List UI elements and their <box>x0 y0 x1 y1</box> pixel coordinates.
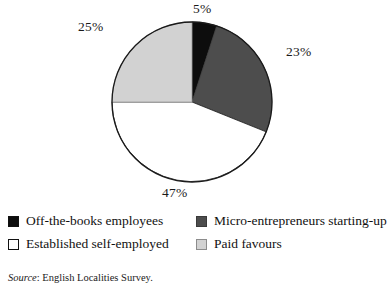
legend-label-established-self-employed: Established self-employed <box>26 237 169 251</box>
legend-row: Off-the-books employees Micro-entreprene… <box>8 214 391 237</box>
pie-label-5-percent: 5% <box>193 1 211 17</box>
legend-item-off-the-books-employees: Off-the-books employees <box>8 214 196 228</box>
legend-label-off-the-books-employees: Off-the-books employees <box>26 214 163 228</box>
pie-label-23-percent: 23% <box>286 44 311 60</box>
pie-label-47-percent: 47% <box>162 185 187 201</box>
chart-legend: Off-the-books employees Micro-entreprene… <box>8 214 391 260</box>
pie-chart-plot-area: 5% 23% 47% 25% <box>0 0 391 205</box>
legend-swatch-dark-gray-icon <box>196 216 207 227</box>
legend-item-micro-entrepreneurs-starting-up: Micro-entrepreneurs starting-up <box>196 214 391 228</box>
source-text: English Localities Survey. <box>42 272 152 283</box>
legend-row: Established self-employed Paid favours <box>8 237 391 260</box>
legend-swatch-white-icon <box>8 239 19 250</box>
legend-swatch-light-gray-icon <box>196 239 207 250</box>
source-label: Source <box>8 272 37 283</box>
legend-item-established-self-employed: Established self-employed <box>8 237 196 251</box>
source-note: Source: English Localities Survey. <box>8 272 153 283</box>
pie-slice-paid-favours <box>112 22 192 102</box>
pie-label-25-percent: 25% <box>78 19 103 35</box>
legend-label-paid-favours: Paid favours <box>214 237 282 251</box>
pie-chart-figure: 5% 23% 47% 25% Off-the-books employees M… <box>0 0 391 302</box>
legend-swatch-black-icon <box>8 216 19 227</box>
legend-label-micro-entrepreneurs-starting-up: Micro-entrepreneurs starting-up <box>214 214 387 228</box>
legend-item-paid-favours: Paid favours <box>196 237 391 251</box>
pie-chart-svg <box>0 0 391 205</box>
